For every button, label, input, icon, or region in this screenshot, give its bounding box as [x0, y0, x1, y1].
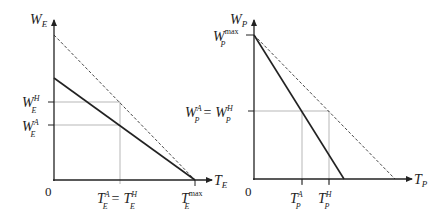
diagram: WE TE 0 WHE WAE TAE=THE TmaxE WP TP 0 Wm… — [0, 0, 446, 220]
label-t-p-a: TAP — [290, 190, 303, 211]
right-dashed-line — [254, 35, 395, 179]
label-w-p-max: WmaxP — [213, 27, 238, 49]
label-t-e-a-eq-t-e-h: TAE=THE — [97, 190, 138, 211]
label-w-p-a-eq-w-p-h: WAP=WHP — [185, 104, 234, 125]
label-w-e-a: WAE — [22, 118, 39, 139]
left-origin: 0 — [45, 184, 52, 199]
left-dashed-line — [54, 35, 195, 180]
label-t-e-max: TmaxE — [181, 189, 203, 211]
left-solid-line — [54, 78, 195, 180]
label-t-p-h: THP — [318, 190, 333, 211]
right-origin: 0 — [245, 184, 252, 199]
right-solid-line — [254, 35, 344, 179]
left-x-axis-label: TE — [214, 173, 228, 190]
right-x-axis-label: TP — [414, 172, 428, 189]
left-y-axis-label: WE — [30, 12, 48, 29]
label-w-e-h: WHE — [22, 94, 41, 115]
